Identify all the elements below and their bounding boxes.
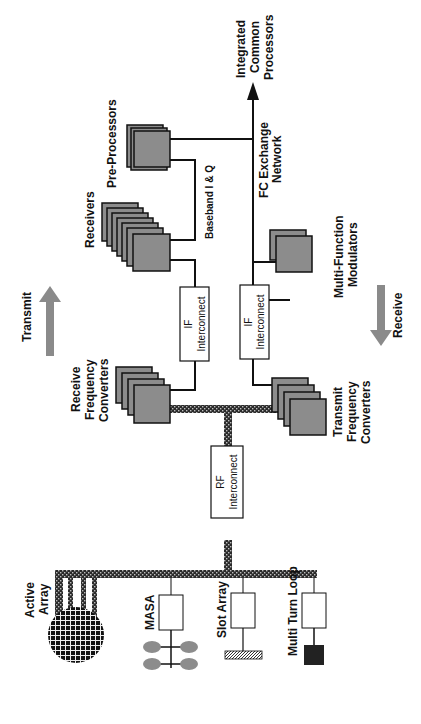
if-bottom-label-2: Interconnect	[255, 294, 266, 349]
masa-element-icon	[143, 641, 161, 653]
output-arrow-icon	[247, 82, 259, 100]
pre-processors-stack	[127, 125, 170, 170]
receive-frequency-converters-label-1: Receive	[69, 366, 83, 412]
slot-array-label: Slot Array	[215, 581, 229, 638]
slot-array-icon	[225, 651, 262, 659]
transmit-frequency-converters-label-1: Transmit	[331, 387, 345, 437]
rf-architecture-diagram: IF Interconnect IF Interconnect RF Inter…	[0, 0, 421, 724]
rf-interconnect: RF Interconnect	[211, 446, 243, 518]
receive-frequency-converters-label-3: Converters	[97, 358, 111, 422]
baseband-label: Baseband I & Q	[204, 165, 215, 239]
transmit-frequency-converters-stack	[272, 378, 326, 435]
multi-turn-loop-label: Multi Turn Loop	[286, 566, 300, 656]
multi-turn-loop-antenna	[302, 578, 326, 665]
receive-arrow-icon	[370, 285, 392, 346]
masa-element-icon	[143, 658, 161, 670]
receive-label: Receive	[391, 292, 405, 338]
integrated-processors-label-3: Processors	[262, 14, 276, 80]
pre-processors-label: Pre-Processors	[105, 99, 119, 188]
if-top-label-1: IF	[183, 320, 194, 329]
masa-label: MASA	[143, 594, 157, 630]
receivers-stack	[102, 203, 170, 271]
slot-array-antenna	[225, 578, 262, 659]
active-array-label-1: Active	[23, 582, 37, 618]
transmit-frequency-converters-label-2: Frequency	[345, 381, 359, 442]
integrated-processors-label-1: Integrated	[234, 20, 248, 78]
transmit-arrow-icon	[39, 286, 61, 356]
transmit-label: Transmit	[20, 292, 34, 342]
multi-function-modulators-label-2: Modulators	[346, 222, 360, 287]
masa-element-icon	[180, 658, 198, 670]
rf-bus	[55, 405, 317, 632]
rf-label-1: RF	[215, 475, 226, 488]
if-bottom-label-1: IF	[243, 318, 254, 327]
masa-element-icon	[180, 641, 198, 653]
integrated-processors-label-2: Common	[248, 21, 262, 73]
if-interconnect-bottom: IF Interconnect	[240, 285, 269, 359]
active-array-icon	[48, 607, 104, 663]
multi-function-modulators-stack	[270, 230, 312, 272]
if-top-label-2: Interconnect	[196, 296, 207, 351]
transmit-frequency-converters-label-3: Converters	[359, 380, 373, 444]
rf-label-2: Interconnect	[228, 454, 239, 509]
multi-turn-loop-icon	[304, 645, 324, 665]
receivers-label: Receivers	[83, 191, 97, 248]
receive-frequency-converters-stack	[116, 367, 170, 423]
multi-function-modulators-label-1: Multi-Function	[332, 215, 346, 298]
if-interconnect-top: IF Interconnect	[180, 287, 209, 361]
fc-exchange-label-1: FC Exchange	[257, 122, 271, 198]
active-array-label-2: Array	[37, 583, 51, 615]
receive-frequency-converters-label-2: Frequency	[83, 359, 97, 420]
fc-exchange-label-2: Network	[270, 135, 284, 183]
